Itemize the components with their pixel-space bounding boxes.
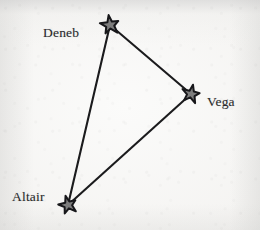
constellation-line-vega-altair: [68, 94, 191, 205]
constellation-line-deneb-vega: [110, 25, 191, 94]
constellation-figure: DenebVegaAltair: [0, 0, 260, 230]
constellation-stars: [58, 15, 199, 213]
star-label-vega: Vega: [207, 95, 235, 109]
star-marker-deneb[interactable]: [100, 15, 118, 33]
star-label-altair: Altair: [12, 190, 45, 204]
star-marker-altair[interactable]: [58, 196, 76, 214]
star-marker-vega[interactable]: [183, 85, 200, 103]
constellation-line-altair-deneb: [68, 25, 110, 205]
constellation-edges: [68, 25, 191, 205]
star-label-deneb: Deneb: [43, 26, 79, 40]
